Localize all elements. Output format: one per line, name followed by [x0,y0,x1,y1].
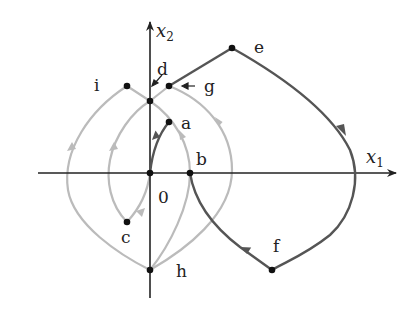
label-e: e [254,37,264,57]
origin-label: 0 [158,187,169,207]
label-b: b [196,149,207,169]
phase-portrait-diagram: a b c d e f g h i 0 x1 x2 [0,0,413,315]
point-g [166,83,173,90]
point-e [229,45,236,52]
label-d: d [157,59,168,79]
point-h [147,267,154,274]
trajectory-d-to-g [150,86,169,101]
point-d [147,98,154,105]
dark-trajectories [150,48,355,270]
trajectory-0-to-a [150,122,169,173]
point-a [166,119,173,126]
trajectory-e-to-f [232,48,355,270]
label-g: g [204,76,215,96]
arrow-icon [182,83,188,89]
x-axis-label: x1 [366,146,384,170]
label-f: f [273,236,281,256]
y-axis-label: x2 [156,20,174,44]
label-c: c [121,227,131,247]
trajectory-c-to-d [109,101,150,222]
label-h: h [176,261,187,281]
point-f [269,267,276,274]
arrow-icon [109,142,118,151]
trajectory-0-to-c [127,173,150,222]
dark-arrowheads [152,124,346,255]
label-i: i [94,75,100,95]
point-b [187,170,194,177]
point-c [124,219,131,226]
point-i [124,83,131,90]
trajectory-f-to-b [190,173,272,270]
trajectory-g-to-e [169,48,232,86]
axes [38,22,396,298]
labels: a b c d e f g h i 0 x1 x2 [94,20,384,281]
point-origin [147,170,154,177]
label-a: a [181,113,191,133]
